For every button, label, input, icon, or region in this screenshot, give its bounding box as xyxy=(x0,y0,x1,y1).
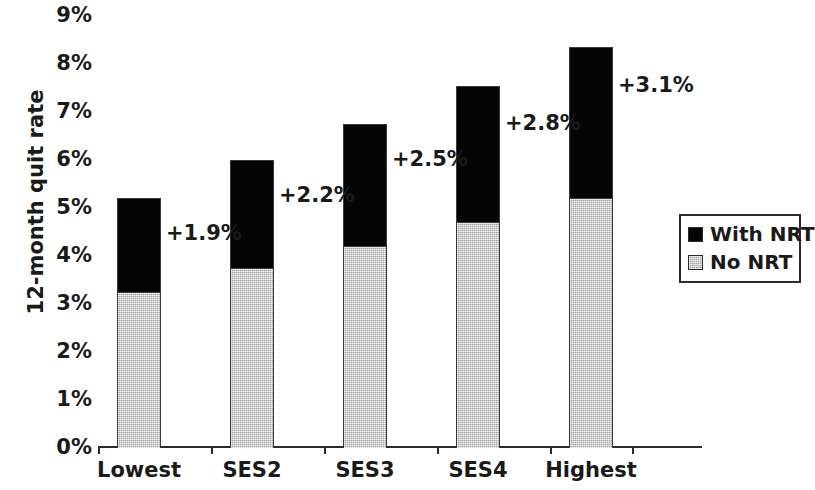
y-tick-label-8: 8% xyxy=(30,53,92,74)
y-axis-tick-labels: 9% 8% 7% 6% 5% 4% 3% 2% 1% 0% xyxy=(30,0,92,490)
bar-stack-lowest[interactable] xyxy=(117,198,161,448)
legend-item-with-nrt[interactable]: With NRT xyxy=(688,222,792,246)
x-tick-ses4 xyxy=(437,448,439,454)
bar-segment-with-nrt-ses2[interactable] xyxy=(230,160,274,268)
delta-label-lowest: +1.9% xyxy=(166,221,242,245)
delta-label-ses2: +2.2% xyxy=(279,183,355,207)
delta-label-highest: +3.1% xyxy=(618,73,694,97)
delta-label-ses4: +2.8% xyxy=(505,111,581,135)
bar-segment-no-nrt-ses4[interactable] xyxy=(456,222,500,448)
y-tick-label-6: 6% xyxy=(30,149,92,170)
y-tick-label-1: 1% xyxy=(30,389,92,410)
y-tick-label-5: 5% xyxy=(30,197,92,218)
legend-item-no-nrt[interactable]: No NRT xyxy=(688,250,792,274)
bar-segment-no-nrt-ses2[interactable] xyxy=(230,268,274,448)
legend-label-with-nrt: With NRT xyxy=(710,224,815,244)
x-tick-lowest xyxy=(98,448,100,454)
plot-area: Lowest SES2 SES3 SES4 Highest +1.9% +2.2… xyxy=(98,14,698,448)
bar-segment-no-nrt-lowest[interactable] xyxy=(117,292,161,448)
bar-stack-ses3[interactable] xyxy=(343,124,387,448)
y-tick-label-4: 4% xyxy=(30,245,92,266)
legend-label-no-nrt: No NRT xyxy=(710,252,792,272)
x-axis-label-highest: Highest xyxy=(516,458,666,482)
x-tick-ses2 xyxy=(211,448,213,454)
y-tick-label-3: 3% xyxy=(30,293,92,314)
bar-stack-ses2[interactable] xyxy=(230,160,274,448)
y-tick-label-7: 7% xyxy=(30,101,92,122)
y-tick-label-2: 2% xyxy=(30,341,92,362)
y-tick-label-9: 9% xyxy=(30,5,92,26)
x-tick-highest xyxy=(550,448,552,454)
bar-segment-with-nrt-lowest[interactable] xyxy=(117,198,161,292)
bar-segment-no-nrt-ses3[interactable] xyxy=(343,246,387,448)
x-tick-end xyxy=(632,448,634,454)
x-tick-ses3 xyxy=(324,448,326,454)
bar-stack-highest[interactable] xyxy=(569,47,613,448)
bar-segment-no-nrt-highest[interactable] xyxy=(569,198,613,448)
y-tick-label-0: 0% xyxy=(30,437,92,458)
black-square-swatch-icon xyxy=(688,227,703,242)
gray-square-swatch-icon xyxy=(688,255,703,270)
bar-stack-ses4[interactable] xyxy=(456,86,500,448)
chart-legend: With NRT No NRT xyxy=(679,214,801,283)
delta-label-ses3: +2.5% xyxy=(392,147,468,171)
